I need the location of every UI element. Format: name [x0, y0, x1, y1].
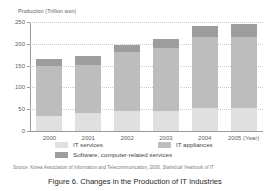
bar-segment-it-services[interactable]	[153, 111, 179, 131]
gridline	[30, 87, 263, 89]
legend-row-secondary: Software, computer-related services	[0, 151, 270, 161]
legend-swatch-software	[55, 152, 68, 158]
bar-segment-it-services[interactable]	[192, 108, 218, 131]
bar-segment-it-services[interactable]	[231, 108, 257, 131]
bar-segment-software[interactable]	[114, 45, 140, 52]
bar-stack[interactable]	[75, 56, 101, 131]
legend-item-it-appliances: IT appliances	[158, 141, 213, 148]
bar-segment-it-services[interactable]	[114, 111, 140, 131]
figure-it-production: Production (Trillion won) 05010015020025…	[0, 0, 270, 191]
source-note: Source: Korea Association of Information…	[13, 165, 214, 170]
y-axis-tick-label: 100	[15, 84, 25, 90]
source-prefix: Source:	[13, 165, 29, 170]
legend-row-primary: IT services IT appliances	[0, 141, 270, 151]
bar-segment-it-appliances[interactable]	[192, 37, 218, 108]
y-axis-tick-mark	[27, 44, 30, 45]
bar-segment-it-appliances[interactable]	[36, 66, 62, 115]
bar-segment-it-appliances[interactable]	[114, 52, 140, 111]
legend-swatch-it-services	[55, 142, 68, 148]
legend-label-it-services: IT services	[73, 141, 103, 148]
gridline	[30, 66, 263, 68]
y-axis-unit-label: Production (Trillion won)	[18, 8, 76, 14]
bar-segment-software[interactable]	[231, 24, 257, 37]
chart-legend: IT services IT appliances Software, comp…	[0, 141, 270, 161]
bar-segment-it-appliances[interactable]	[75, 65, 101, 113]
y-axis-tick-label: 50	[18, 106, 25, 112]
bar-segment-it-services[interactable]	[36, 116, 62, 131]
source-body: Korea Association of Information and Tel…	[30, 165, 161, 170]
bar-segment-software[interactable]	[192, 26, 218, 37]
y-axis-line	[30, 22, 31, 131]
y-axis-tick-label: 200	[15, 41, 25, 47]
legend-label-software: Software, computer-related services	[73, 151, 172, 158]
legend-swatch-it-appliances	[158, 142, 171, 148]
y-axis-tick-mark	[27, 66, 30, 67]
gridline	[30, 22, 263, 24]
bar-segment-it-appliances[interactable]	[231, 37, 257, 108]
y-axis-tick-mark	[27, 87, 30, 88]
figure-caption: Figure 6. Changes in the Production of I…	[0, 177, 270, 186]
bar-stack[interactable]	[192, 26, 218, 131]
bar-segment-software[interactable]	[153, 39, 179, 48]
legend-item-software: Software, computer-related services	[55, 151, 172, 158]
x-axis-line	[30, 131, 263, 132]
y-axis-tick-label: 250	[15, 19, 25, 25]
bar-segment-it-appliances[interactable]	[153, 48, 179, 111]
bar-stack[interactable]	[231, 24, 257, 131]
y-axis-tick-label: 150	[15, 63, 25, 69]
source-publication: Statistical Yearbook of IT	[162, 165, 213, 170]
y-axis-tick-mark	[27, 131, 30, 132]
y-axis-tick-label: 0	[22, 128, 25, 134]
y-axis-tick-mark	[27, 22, 30, 23]
legend-label-it-appliances: IT appliances	[176, 141, 213, 148]
gridline	[30, 44, 263, 46]
bar-segment-it-services[interactable]	[75, 113, 101, 131]
bar-stack[interactable]	[114, 45, 140, 131]
bar-stack[interactable]	[153, 39, 179, 131]
bar-stack[interactable]	[36, 59, 62, 131]
legend-item-it-services: IT services	[55, 141, 103, 148]
gridline	[30, 109, 263, 111]
bar-segment-software[interactable]	[75, 56, 101, 65]
bar-segment-software[interactable]	[36, 59, 62, 66]
y-axis-tick-mark	[27, 109, 30, 110]
chart-plot-area: 050100150200250 200020012002200320042005…	[30, 22, 263, 131]
